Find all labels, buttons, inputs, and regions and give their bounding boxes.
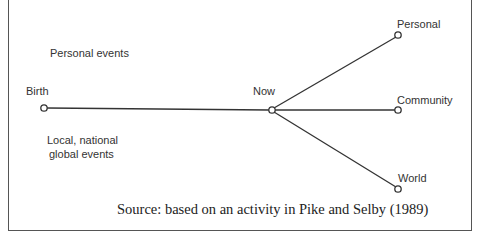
label-personal-events: Personal events: [50, 47, 129, 59]
source-caption: Source: based on an activity in Pike and…: [117, 201, 428, 218]
timeline-diagram: Personal events Birth Now Personal Commu…: [0, 0, 478, 242]
timeline-birth-to-now: [47, 108, 269, 110]
label-local-line1: Local, national: [47, 134, 118, 146]
node-community: [395, 107, 401, 113]
node-personal: [395, 32, 401, 38]
label-birth: Birth: [26, 85, 49, 97]
label-now: Now: [253, 85, 275, 97]
node-world: [395, 186, 401, 192]
label-local-line2: global events: [49, 148, 114, 160]
branch-personal: [274, 37, 396, 108]
node-now: [269, 107, 275, 113]
label-personal: Personal: [397, 18, 440, 30]
label-community: Community: [397, 94, 453, 106]
branch-world: [274, 112, 396, 187]
label-world: World: [398, 172, 427, 184]
node-birth: [41, 105, 47, 111]
